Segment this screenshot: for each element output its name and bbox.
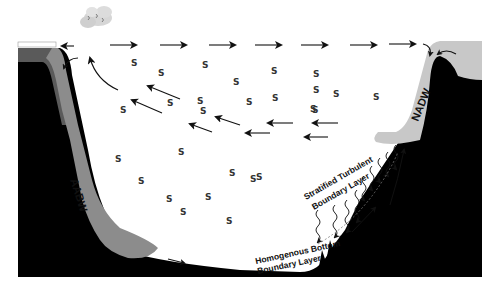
svg-text:S: S [333, 89, 339, 99]
svg-text:S: S [271, 66, 277, 76]
svg-text:S: S [200, 106, 206, 116]
left-shelf-surface [18, 42, 56, 47]
svg-text:S: S [131, 58, 137, 68]
svg-text:S: S [202, 60, 208, 70]
svg-text:S: S [373, 92, 379, 102]
svg-text:S: S [233, 77, 239, 87]
ocean-circulation-diagram: AABW NADW [0, 0, 500, 299]
cloud-icon [80, 6, 112, 28]
svg-text:S: S [272, 93, 278, 103]
svg-text:S: S [313, 85, 319, 95]
surface-flow-arrows [62, 44, 456, 90]
svg-text:S: S [197, 96, 203, 106]
mixing-symbols: S S S S S S S S S S S S S S S S S S S S … [115, 58, 379, 226]
svg-text:S: S [138, 176, 144, 186]
svg-text:S: S [313, 69, 319, 79]
svg-text:S: S [312, 105, 318, 115]
svg-text:S: S [205, 192, 211, 202]
svg-text:S: S [115, 154, 121, 164]
svg-text:S: S [158, 68, 164, 78]
svg-text:S: S [246, 97, 252, 107]
svg-text:S: S [180, 207, 186, 217]
svg-text:S: S [178, 147, 184, 157]
svg-text:S: S [167, 98, 173, 108]
svg-text:S: S [120, 105, 126, 115]
svg-text:S: S [226, 216, 232, 226]
svg-text:S: S [256, 172, 262, 182]
svg-text:S: S [229, 168, 235, 178]
svg-text:S: S [166, 194, 172, 204]
